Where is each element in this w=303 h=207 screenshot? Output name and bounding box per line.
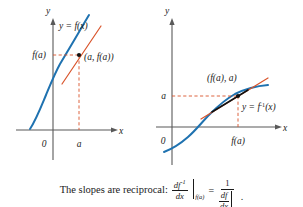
caption-lhs-denominator: dx <box>174 191 186 201</box>
left-origin-label: 0 <box>42 139 47 149</box>
caption-rhs-denominator: df dx a <box>218 190 237 207</box>
left-x-axis-label: x <box>118 126 124 136</box>
right-x-tick-label: f(a) <box>231 136 245 147</box>
caption-rhs-eval-subscript: a <box>234 205 237 207</box>
right-tangency-point <box>236 94 240 98</box>
caption-rhs-inner-fraction: df dx <box>218 191 230 207</box>
caption-lhs-numerator-exponent: -1 <box>180 178 185 185</box>
caption-rhs-numerator: 1 <box>221 179 233 190</box>
right-curve-f-inverse <box>164 85 268 152</box>
right-point-label: (f(a), a) <box>207 73 237 84</box>
caption-rhs-fraction: 1 df dx a <box>218 179 237 207</box>
right-curve-label-base: y = f <box>241 102 261 112</box>
left-y-axis-label: y <box>45 6 51 16</box>
left-panel-chart: y x 0 a f(a) y = f(x) (a, f(a)) <box>0 0 150 172</box>
left-curve-label: y = f(x) <box>58 21 88 32</box>
right-origin-label: 0 <box>161 136 166 146</box>
left-x-tick-label: a <box>77 139 82 149</box>
right-y-axis-arrowhead <box>169 18 174 25</box>
left-tangency-point <box>77 53 81 57</box>
left-y-axis-arrowhead <box>50 18 55 25</box>
left-point-label: (a, f(a)) <box>84 52 114 63</box>
caption: The slopes are reciprocal: df-1 dx f(a) … <box>0 172 303 207</box>
right-y-tick-label: a <box>161 91 166 101</box>
inverse-function-figure: y x 0 a f(a) y = f(x) (a, f(a)) y x 0 f(… <box>0 0 303 207</box>
right-panel-chart: y x 0 f(a) a (f(a), a) y = f-1(x) <box>150 0 303 172</box>
caption-lhs-eval-bar: f(a) <box>193 179 205 199</box>
right-x-axis-arrowhead <box>275 124 282 129</box>
left-y-tick-label: f(a) <box>32 50 46 61</box>
right-curve-label-tail: (x) <box>265 102 276 113</box>
caption-rhs-inner-numerator: df <box>219 191 230 202</box>
caption-lead-text: The slopes are reciprocal: <box>60 179 168 196</box>
caption-rhs-eval-bar: a <box>231 191 237 207</box>
caption-lhs-fraction: df-1 dx <box>172 179 188 201</box>
caption-rhs-inner-denominator: dx <box>218 202 230 207</box>
right-curve-label: y = f-1(x) <box>241 101 276 114</box>
left-curve-f <box>30 15 89 129</box>
right-x-axis-label: x <box>282 123 288 133</box>
caption-lhs-numerator: df-1 <box>172 179 188 191</box>
caption-equals-sign: = <box>208 179 214 196</box>
left-x-axis-arrowhead <box>111 127 118 132</box>
right-y-axis-label: y <box>164 6 170 16</box>
caption-trailing-period: . <box>241 179 244 202</box>
caption-lhs-eval-subscript: f(a) <box>195 193 204 200</box>
